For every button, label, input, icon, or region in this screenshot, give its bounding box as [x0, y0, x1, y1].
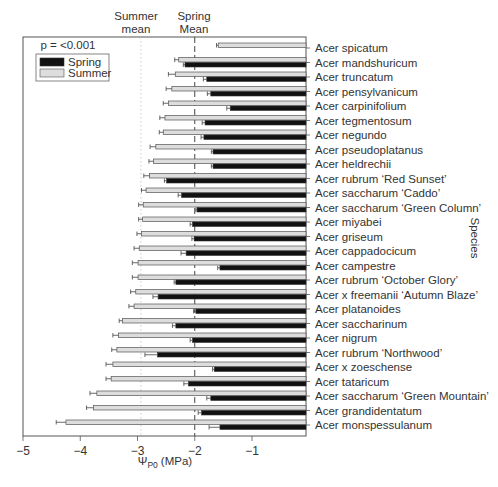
summer-bar	[142, 232, 306, 237]
spring-bar	[213, 150, 306, 155]
species-label: Acer rubrum ‘Red Sunset’	[315, 173, 447, 185]
spring-bar	[192, 338, 306, 343]
spring-bar	[220, 425, 306, 430]
summer-bar	[119, 333, 306, 338]
species-label: Acer griseum	[315, 231, 383, 243]
legend-label-summer: Summer	[68, 67, 112, 79]
spring-bar	[158, 295, 306, 300]
spring-bar	[207, 77, 306, 82]
x-axis-title-subscript: P0	[147, 460, 158, 470]
legend-title: p = <0.001	[41, 39, 96, 51]
summer-bar	[163, 130, 306, 135]
spring-bar	[202, 411, 306, 416]
spring-bar	[194, 237, 306, 242]
species-label: Acer carpinifolium	[315, 100, 406, 112]
spring-bar	[182, 193, 306, 198]
species-label: Acer mandshuricum	[315, 57, 417, 69]
summer-bar	[143, 203, 306, 208]
spring-bar	[205, 121, 306, 126]
spring-bar	[158, 353, 306, 358]
summer-bar	[168, 101, 306, 106]
summer-bar	[97, 391, 306, 396]
species-label: Acer pensylvanicum	[315, 86, 418, 98]
species-label: Acer tataricum	[315, 376, 389, 388]
bar-row	[144, 174, 306, 184]
summer-bar	[139, 246, 306, 251]
spring-bar	[220, 266, 306, 271]
bar-row	[175, 58, 306, 68]
legend-swatch-spring	[40, 58, 64, 66]
x-tick-label: −4	[73, 444, 87, 458]
spring-bar	[211, 92, 306, 97]
summer-bar	[150, 174, 306, 179]
spring-bar	[211, 396, 306, 401]
x-axis-title-unit: (MPa)	[161, 455, 192, 467]
legend-swatch-summer	[40, 69, 64, 77]
spring-bar	[186, 251, 306, 256]
spring-bar	[197, 208, 306, 213]
chart: Summer mean Spring Mean Acer spicatumAce…	[0, 0, 498, 487]
summer-bar	[138, 261, 306, 266]
spring-mean-label-line1: Spring	[177, 10, 210, 22]
species-label: Acer saccharum ‘Green Column’	[315, 202, 481, 214]
species-label: Acer negundo	[315, 129, 387, 141]
x-tick-label: −5	[16, 444, 30, 458]
summer-bar	[146, 188, 306, 193]
summer-mean-label-line1: Summer	[114, 10, 158, 22]
species-label: Acer truncatum	[315, 71, 393, 83]
spring-bar	[196, 309, 306, 314]
summer-bar	[134, 304, 306, 309]
summer-mean-label: Summer mean	[114, 10, 158, 35]
species-label: Acer campestre	[315, 260, 396, 272]
species-label: Acer tegmentosum	[315, 115, 412, 127]
species-labels: Acer spicatumAcer mandshuricumAcer trunc…	[306, 42, 489, 431]
species-label: Acer platanoides	[315, 303, 401, 315]
species-label: Acer saccharum ‘Green Mountain’	[315, 390, 489, 402]
species-label: Acer monspessulanum	[315, 419, 432, 431]
summer-bar	[136, 290, 306, 295]
spring-mean-label-line2: Mean	[180, 23, 209, 35]
species-label: Acer spicatum	[315, 42, 388, 54]
summer-bar	[179, 58, 306, 63]
species-label: Acer pseudoplatanus	[315, 144, 423, 156]
spring-mean-label: Spring Mean	[177, 10, 210, 35]
summer-bar	[123, 319, 306, 324]
x-tick-label: −1	[245, 444, 259, 458]
summer-bar	[165, 116, 306, 121]
summer-bar	[138, 275, 306, 280]
summer-bar	[111, 377, 306, 382]
spring-bar	[167, 179, 306, 184]
summer-bar	[218, 43, 306, 48]
summer-bar	[175, 72, 306, 77]
summer-bar	[172, 87, 306, 92]
species-label: Acer miyabei	[315, 216, 381, 228]
spring-bar	[214, 367, 306, 372]
summer-bar	[66, 420, 306, 425]
summer-bar	[156, 145, 306, 150]
summer-bar	[154, 159, 306, 164]
bar-row	[217, 43, 306, 48]
species-label: Acer x freemanii ‘Autumn Blaze’	[315, 289, 478, 301]
x-axis-title: ΨP0(MPa)	[138, 455, 192, 470]
species-label: Acer rubrum ‘October Glory’	[315, 274, 458, 286]
spring-bar	[192, 222, 306, 227]
species-label: Acer nigrum	[315, 332, 377, 344]
spring-bar	[188, 382, 306, 387]
species-label: Acer saccharinum	[315, 318, 407, 330]
species-label: Acer grandidentatum	[315, 405, 422, 417]
summer-bar	[113, 362, 306, 367]
species-label: Acer heldrechii	[315, 158, 391, 170]
spring-bar	[185, 63, 306, 68]
species-label: Acer rubrum ‘Northwood’	[315, 347, 442, 359]
species-label: Acer x zoeschense	[315, 361, 412, 373]
species-label: Acer saccharum ‘Caddo’	[315, 187, 440, 199]
summer-bar	[93, 406, 306, 411]
summer-mean-label-line2: mean	[122, 23, 151, 35]
spring-bar	[213, 164, 306, 169]
summer-bar	[117, 348, 306, 353]
y-axis-title: Species	[469, 218, 481, 259]
spring-bar	[176, 280, 306, 285]
spring-bar	[230, 106, 306, 111]
x-axis-title-psi: Ψ	[138, 455, 148, 467]
species-label: Acer cappadocicum	[315, 245, 416, 257]
